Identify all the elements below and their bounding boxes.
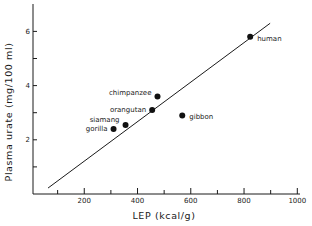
regression-line-group [48, 23, 270, 188]
data-label-gorilla: gorilla [86, 125, 108, 133]
data-point-orangutan [149, 107, 155, 113]
x-ticks: 2004006008001000 [58, 188, 307, 205]
x-tick-label: 1000 [288, 197, 306, 205]
data-point-gibbon [179, 112, 185, 118]
x-tick-label: 600 [184, 197, 197, 205]
y-tick-label: 4 [26, 82, 31, 90]
data-label-human: human [257, 35, 281, 43]
data-point-gorilla [111, 126, 117, 132]
y-ticks: 246 [26, 28, 37, 167]
x-tick-label: 400 [131, 197, 144, 205]
scatter-chart: 2004006008001000 246 gorillasiamangorang… [0, 0, 312, 226]
y-axis-title: Plasma urate (mg/100 ml) [3, 43, 14, 182]
data-label-siamang: siamang [90, 116, 120, 124]
x-axis-title: LEP (kcal/g) [132, 210, 195, 221]
data-point-human [247, 34, 253, 40]
x-tick-label: 800 [237, 197, 250, 205]
y-tick-label: 6 [26, 28, 31, 36]
data-points: gorillasiamangorangutanchimpanzeegibbonh… [86, 34, 282, 134]
axes [33, 4, 300, 194]
data-label-orangutan: orangutan [110, 106, 146, 114]
y-tick-label: 2 [26, 136, 30, 144]
data-label-gibbon: gibbon [189, 113, 213, 121]
data-label-chimpanzee: chimpanzee [109, 89, 152, 97]
x-tick-label: 200 [78, 197, 91, 205]
data-point-chimpanzee [154, 93, 160, 99]
data-point-siamang [123, 122, 129, 128]
regression-line [48, 23, 270, 188]
